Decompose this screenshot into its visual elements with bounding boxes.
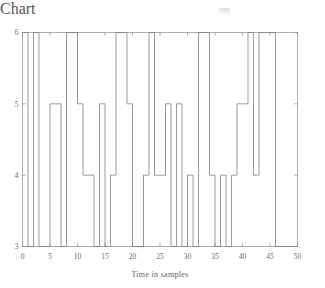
y-tick-labels: 3456: [15, 28, 19, 251]
x-tick-label: 5: [48, 252, 52, 261]
y-tick-label: 6: [15, 28, 19, 37]
x-tick-label: 30: [184, 252, 192, 261]
y-tick-label: 3: [15, 242, 19, 251]
x-tick-label: 20: [129, 252, 137, 261]
chart-figure: 05101520253035404550 3456 Time in sample…: [0, 0, 325, 288]
x-tick-label: 15: [101, 252, 109, 261]
signal-step-line: [23, 33, 298, 247]
x-tick-label: 0: [21, 252, 25, 261]
x-tick-label: 35: [211, 252, 219, 261]
y-tick-label: 4: [15, 171, 19, 180]
y-tickmarks: [23, 33, 298, 247]
x-tick-label: 45: [266, 252, 274, 261]
x-axis-title: Time in samples: [131, 270, 188, 279]
x-tick-labels: 05101520253035404550: [21, 252, 302, 261]
x-tickmarks: [23, 33, 298, 247]
y-tick-label: 5: [15, 100, 19, 109]
x-tick-label: 50: [294, 252, 302, 261]
x-tick-label: 40: [239, 252, 247, 261]
plot-axes: [23, 33, 298, 247]
x-tick-label: 25: [156, 252, 164, 261]
x-tick-label: 10: [74, 252, 82, 261]
step-plot-svg: 05101520253035404550 3456 Time in sample…: [0, 0, 325, 288]
